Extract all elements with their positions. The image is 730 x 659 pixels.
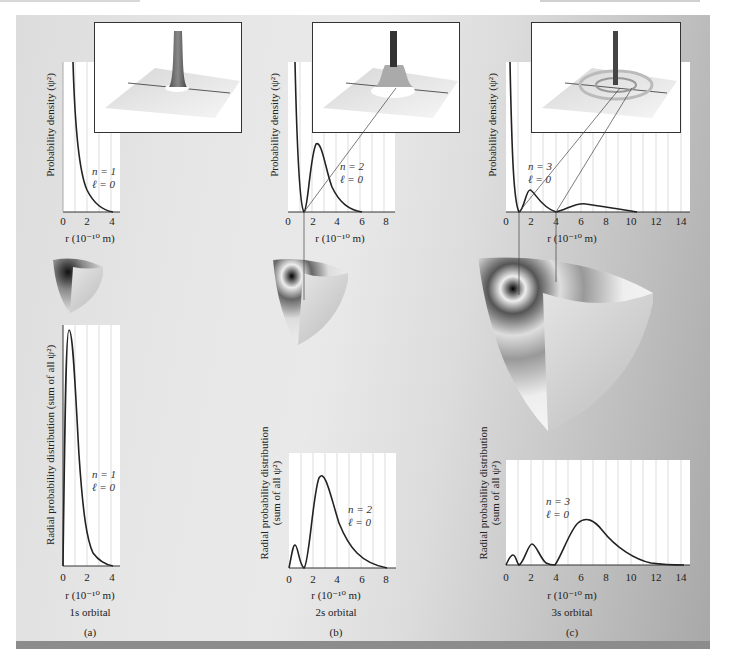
quantum-label-1s-density: n = 1ℓ = 0 — [92, 165, 116, 191]
x-tick: 14 — [676, 571, 687, 583]
y-axis-label-1s-radial: Radial probability distribution (sum of … — [44, 325, 56, 565]
x-tick: 8 — [383, 573, 389, 585]
panel-label-a: (a) — [84, 626, 96, 638]
quantum-label-1s-radial: n = 1ℓ = 0 — [92, 468, 116, 494]
y-axis-label-2s-radial: Radial probability distribution(sum of a… — [258, 418, 282, 568]
x-axis-label-2s-density: r (10⁻¹⁰ m) — [315, 232, 365, 245]
x-tick: 2 — [84, 571, 90, 583]
plot-1s-radial — [63, 325, 120, 566]
panel-label-c: (c) — [566, 626, 578, 638]
inset-2s-3d-surface — [312, 22, 460, 133]
x-tick: 8 — [603, 571, 609, 583]
x-tick: 6 — [359, 573, 365, 585]
y-axis-label-3s-density: Probability density (ψ²) — [486, 55, 498, 195]
quantum-label-3s-density: n = 3ℓ = 0 — [528, 160, 552, 186]
x-tick: 6 — [359, 215, 365, 227]
quantum-label-2s-radial: n = 2ℓ = 0 — [348, 503, 372, 529]
orbital-label-2s: 2s orbital — [315, 606, 356, 618]
x-tick: 12 — [651, 215, 662, 227]
x-axis-label-3s-density: r (10⁻¹⁰ m) — [547, 232, 597, 245]
plot-3s-radial — [506, 460, 690, 565]
x-tick: 4 — [553, 571, 559, 583]
x-tick: 10 — [626, 215, 637, 227]
x-tick: 0 — [285, 215, 291, 227]
top-strip-left — [0, 0, 140, 2]
x-tick: 4 — [334, 573, 340, 585]
quantum-label-3s-radial: n = 3ℓ = 0 — [546, 495, 570, 521]
sphere-cutaway-1s — [48, 255, 108, 315]
x-axis-label-1s-radial: r (10⁻¹⁰ m) — [65, 589, 115, 602]
x-tick: 0 — [286, 573, 292, 585]
figure-bottom-bar — [16, 641, 710, 649]
x-tick: 14 — [676, 215, 687, 227]
inset-3s-3d-surface — [531, 22, 681, 133]
x-tick: 0 — [503, 571, 509, 583]
x-tick: 10 — [626, 571, 637, 583]
x-tick: 2 — [528, 215, 534, 227]
x-tick: 2 — [528, 571, 534, 583]
x-tick: 4 — [109, 571, 115, 583]
x-tick: 12 — [651, 571, 662, 583]
surface-plot-2s-icon — [313, 23, 460, 133]
x-tick: 0 — [60, 571, 66, 583]
surface-plot-1s-icon — [95, 23, 242, 133]
x-tick: 8 — [383, 215, 389, 227]
inset-1s-3d-surface — [94, 22, 242, 133]
panel-label-b: (b) — [330, 626, 343, 638]
y-axis-label-2s-density: Probability density (ψ²) — [268, 55, 280, 195]
plot-1s-radial-curve — [63, 325, 120, 566]
y-axis-label-1s-density: Probability density (ψ²) — [44, 55, 56, 195]
surface-plot-3s-icon — [532, 23, 681, 133]
orbital-label-1s: 1s orbital — [69, 606, 110, 618]
x-tick: 2 — [310, 573, 316, 585]
x-tick: 2 — [84, 215, 90, 227]
x-tick: 0 — [60, 215, 66, 227]
x-tick: 4 — [109, 215, 115, 227]
x-tick: 6 — [578, 571, 584, 583]
x-axis-label-3s-radial: r (10⁻¹⁰ m) — [547, 589, 597, 602]
sphere-cutaway-2s — [268, 255, 353, 345]
x-axis-label-2s-radial: r (10⁻¹⁰ m) — [311, 589, 361, 602]
x-tick: 0 — [503, 215, 509, 227]
x-tick: 4 — [334, 215, 340, 227]
sphere-cutaway-3s — [473, 253, 663, 433]
plot-2s-radial — [289, 453, 396, 568]
top-strip-right — [540, 0, 700, 2]
x-tick: 4 — [553, 215, 559, 227]
plot-2s-radial-curve — [289, 453, 396, 568]
x-tick: 8 — [603, 215, 609, 227]
x-tick: 2 — [310, 215, 316, 227]
x-tick: 6 — [578, 215, 584, 227]
y-axis-label-3s-radial: Radial probability distribution(sum of a… — [477, 418, 501, 568]
plot-3s-radial-curve — [506, 460, 690, 565]
quantum-label-2s-density: n = 2ℓ = 0 — [340, 160, 364, 186]
orbital-label-3s: 3s orbital — [551, 606, 592, 618]
x-axis-label-1s-density: r (10⁻¹⁰ m) — [65, 232, 115, 245]
